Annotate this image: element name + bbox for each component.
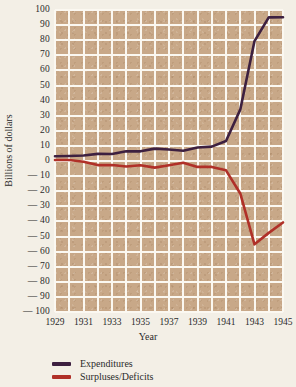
series-line-expenditures [55,17,283,156]
x-axis-title: Year [0,331,296,342]
y-axis-tick-label: — 60 [0,247,50,257]
legend-item: Surpluses/Deficits [52,370,153,383]
y-axis-tick-label: 90 [0,20,50,30]
legend-item-label: Expenditures [80,358,133,369]
y-axis-tick-label: 80 [0,35,50,45]
plot-area [55,10,283,312]
y-axis-tick-label: — 70 [0,262,50,272]
y-axis-title: Billions of dollars [3,91,14,211]
x-axis-tick-label: 1945 [263,317,296,327]
chart-root: 1009080706050403020100— 10— 20— 30— 40— … [0,0,296,387]
y-axis-tick-label: — 40 [0,216,50,226]
data-series-layer [55,10,283,312]
y-axis-tick-label: — 80 [0,277,50,287]
y-axis-tick-label: 100 [0,5,50,15]
y-axis-tick-label: 50 [0,81,50,91]
y-axis-tick-label: 60 [0,65,50,75]
legend-color-swatch [52,375,71,379]
y-axis-tick-label: — 50 [0,232,50,242]
chart-legend: ExpendituresSurpluses/Deficits [52,357,153,383]
y-axis-tick-label: — 100 [0,307,50,317]
legend-color-swatch [52,362,71,366]
series-line-surpluses-deficits [55,160,283,244]
legend-item: Expenditures [52,357,153,370]
y-axis-tick-label: 70 [0,50,50,60]
y-axis-tick-label: — 90 [0,292,50,302]
legend-item-label: Surpluses/Deficits [80,371,153,382]
